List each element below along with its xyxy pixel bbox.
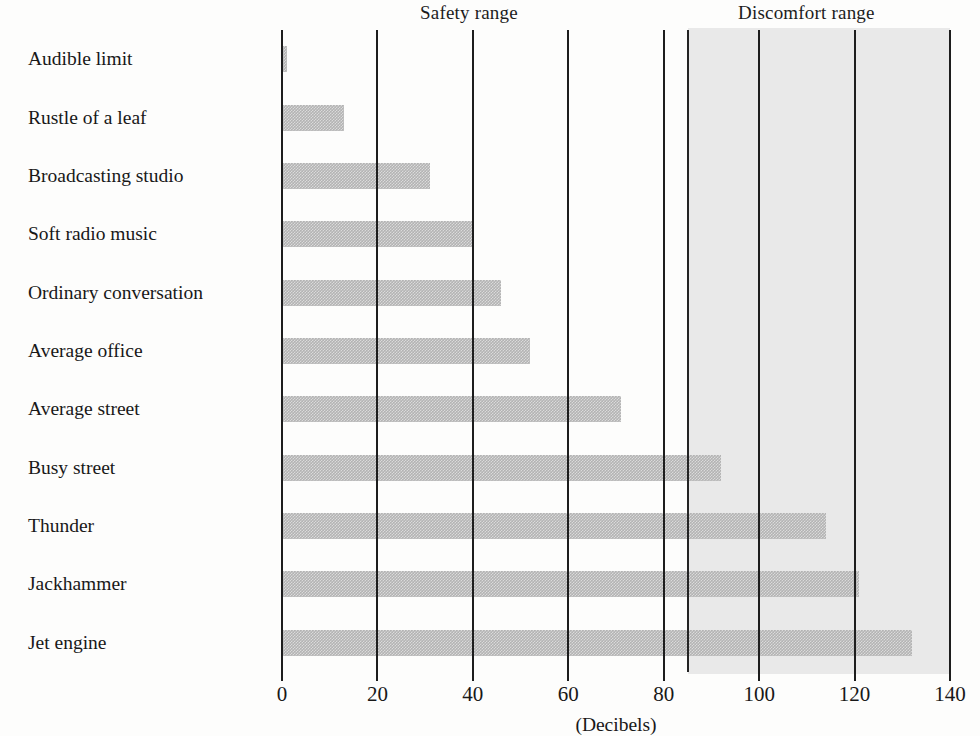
category-label-jackhammer: Jackhammer bbox=[28, 573, 127, 595]
x-tick-100 bbox=[758, 672, 760, 681]
gridline-0 bbox=[281, 30, 283, 672]
bar-row bbox=[282, 263, 950, 321]
category-label-soft-radio-music: Soft radio music bbox=[28, 223, 157, 245]
category-label-broadcasting-studio: Broadcasting studio bbox=[28, 165, 183, 187]
bar-row bbox=[282, 555, 950, 613]
safety-range-caption: Safety range bbox=[420, 2, 518, 24]
gridline-discomfort-threshold bbox=[687, 30, 689, 672]
gridline-60 bbox=[567, 30, 569, 672]
x-tick-140 bbox=[949, 672, 951, 681]
bar-rustle-of-a-leaf bbox=[282, 105, 344, 131]
bar-average-street bbox=[282, 396, 621, 422]
gridline-120 bbox=[854, 30, 856, 672]
gridline-40 bbox=[472, 30, 474, 672]
category-label-ordinary-conversation: Ordinary conversation bbox=[28, 282, 203, 304]
bar-row bbox=[282, 497, 950, 555]
bar-row bbox=[282, 439, 950, 497]
x-tick-0 bbox=[281, 672, 283, 681]
category-label-thunder: Thunder bbox=[28, 515, 94, 537]
x-tick-label-140: 140 bbox=[934, 682, 966, 707]
x-tick-60 bbox=[567, 672, 569, 681]
category-label-rustle-of-a-leaf: Rustle of a leaf bbox=[28, 107, 147, 129]
x-axis-title: (Decibels) bbox=[575, 714, 656, 736]
x-tick-label-120: 120 bbox=[839, 682, 871, 707]
bar-row bbox=[282, 380, 950, 438]
bar-row bbox=[282, 322, 950, 380]
x-tick-20 bbox=[376, 672, 378, 681]
category-label-column: Audible limitRustle of a leafBroadcastin… bbox=[0, 30, 275, 672]
gridline-100 bbox=[758, 30, 760, 672]
category-label-busy-street: Busy street bbox=[28, 457, 115, 479]
bar-thunder bbox=[282, 513, 826, 539]
bar-busy-street bbox=[282, 455, 721, 481]
bar-row bbox=[282, 205, 950, 263]
gridline-20 bbox=[376, 30, 378, 672]
x-axis: (Decibels) 020406080100120140 bbox=[282, 672, 950, 730]
x-tick-40 bbox=[472, 672, 474, 681]
x-tick-label-100: 100 bbox=[743, 682, 775, 707]
gridline-80 bbox=[663, 30, 665, 672]
x-tick-label-20: 20 bbox=[367, 682, 388, 707]
bars-layer bbox=[282, 30, 950, 672]
bar-row bbox=[282, 30, 950, 88]
bar-row bbox=[282, 147, 950, 205]
discomfort-range-caption: Discomfort range bbox=[738, 2, 875, 24]
x-tick-label-40: 40 bbox=[462, 682, 483, 707]
x-tick-label-0: 0 bbox=[277, 682, 288, 707]
category-label-audible-limit: Audible limit bbox=[28, 48, 133, 70]
x-tick-80 bbox=[663, 672, 665, 681]
bar-row bbox=[282, 88, 950, 146]
plot-area bbox=[282, 30, 950, 672]
x-tick-label-80: 80 bbox=[653, 682, 674, 707]
gridline-140 bbox=[949, 30, 951, 672]
x-tick-120 bbox=[854, 672, 856, 681]
category-label-average-street: Average street bbox=[28, 398, 140, 420]
bar-average-office bbox=[282, 338, 530, 364]
bar-ordinary-conversation bbox=[282, 280, 501, 306]
category-label-jet-engine: Jet engine bbox=[28, 632, 107, 654]
category-label-average-office: Average office bbox=[28, 340, 143, 362]
bar-row bbox=[282, 614, 950, 672]
bar-jackhammer bbox=[282, 571, 859, 597]
x-tick-label-60: 60 bbox=[558, 682, 579, 707]
bar-broadcasting-studio bbox=[282, 163, 430, 189]
